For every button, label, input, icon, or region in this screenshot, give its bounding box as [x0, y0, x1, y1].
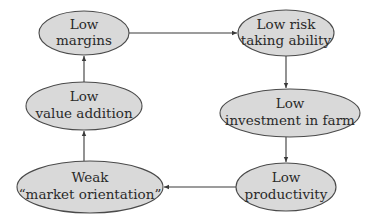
node-label-line: Low	[276, 95, 305, 111]
node-low-productivity: Low productivity	[236, 163, 336, 211]
node-label-line: Weak	[72, 169, 110, 185]
node-label-line: value addition	[34, 105, 132, 121]
node-low-margins: Low margins	[39, 11, 129, 55]
node-label-line: “market orientation”	[19, 186, 162, 202]
vicious-cycle-diagram: Low margins Low risk taking ability Low …	[0, 0, 371, 224]
node-label-line: investment in farm	[225, 112, 355, 128]
node-weak-market-orientation: Weak “market orientation”	[17, 161, 163, 213]
node-low-risk-taking: Low risk taking ability	[238, 10, 334, 56]
node-label-line: margins	[56, 32, 112, 48]
node-label-line: Low	[70, 16, 99, 32]
node-label-line: Low risk	[257, 16, 317, 32]
node-label-line: taking ability	[241, 32, 332, 48]
node-low-value-addition: Low value addition	[26, 82, 142, 130]
node-label-line: productivity	[245, 186, 328, 202]
node-label-line: Low	[70, 88, 99, 104]
node-label-line: Low	[272, 169, 301, 185]
node-low-investment: Low investment in farm	[220, 89, 360, 137]
